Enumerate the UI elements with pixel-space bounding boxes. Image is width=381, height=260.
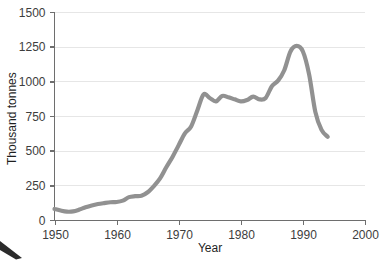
x-tick-label-1970: 1970 bbox=[166, 228, 193, 242]
y-tick-label-1000: 1000 bbox=[19, 75, 46, 89]
x-tick-label-1990: 1990 bbox=[290, 228, 317, 242]
data-series-line bbox=[55, 46, 328, 212]
y-axis-group: 0250500750100012501500 bbox=[19, 6, 55, 228]
y-tick-label-1250: 1250 bbox=[19, 40, 46, 54]
y-tick-label-1500: 1500 bbox=[19, 6, 46, 20]
y-axis-title: Thousand tonnes bbox=[5, 72, 19, 165]
x-axis-title: Year bbox=[198, 241, 222, 255]
y-tick-label-500: 500 bbox=[25, 144, 45, 158]
page-corner-wedge-icon bbox=[0, 241, 22, 260]
line-chart-svg: 0250500750100012501500 19501960197019801… bbox=[0, 0, 381, 260]
x-tick-label-2000: 2000 bbox=[352, 228, 379, 242]
x-tick-label-1950: 1950 bbox=[42, 228, 69, 242]
y-tick-label-750: 750 bbox=[25, 110, 45, 124]
x-tick-label-1980: 1980 bbox=[228, 228, 255, 242]
y-tick-label-0: 0 bbox=[39, 214, 46, 228]
y-tick-label-250: 250 bbox=[25, 179, 45, 193]
x-tick-label-1960: 1960 bbox=[104, 228, 131, 242]
x-axis-group: 195019601970198019902000 bbox=[42, 220, 379, 242]
chart-figure: 0250500750100012501500 19501960197019801… bbox=[0, 0, 381, 260]
